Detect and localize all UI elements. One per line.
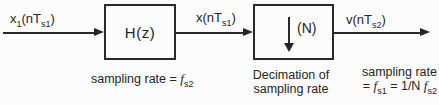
output-flow-line	[334, 32, 421, 34]
caption-line: = fs1 = 1/N fs2	[338, 79, 437, 93]
caption-text: = 1/N	[387, 79, 424, 93]
filtered-signal-label: x(nTs1)	[196, 10, 236, 25]
signal-text: )	[232, 10, 236, 25]
signal-subscript: s2	[372, 20, 382, 30]
caption-subscript: s1	[377, 86, 387, 96]
output-signal-label: v(nTs2)	[346, 12, 386, 27]
signal-text: )	[51, 11, 55, 26]
output-rate-caption: sampling rate = fs1 = 1/N fs2	[338, 65, 437, 93]
input-signal-label: x1(nTs1)	[10, 11, 55, 26]
signal-text: (nT	[203, 10, 223, 25]
mid-arrowhead-icon	[243, 28, 253, 36]
filter-rate-caption: sampling rate = fs2	[91, 72, 193, 86]
decimator-caption: Decimation of sampling rate	[247, 68, 335, 96]
decimation-block-diagram: x1(nTs1) H(z) x(nTs1) (N) v(nTs2) sampli…	[0, 0, 439, 105]
output-arrowhead-icon	[420, 28, 430, 36]
downsample-arrowhead-icon	[284, 43, 294, 52]
decimator-factor-label: (N)	[297, 20, 316, 36]
caption-line: Decimation of	[247, 68, 335, 82]
caption-line: sampling rate	[247, 82, 335, 96]
downsample-arrow-icon	[288, 17, 290, 44]
input-flow-line	[3, 32, 95, 34]
caption-text: =	[363, 79, 374, 93]
signal-subscript: s1	[222, 18, 232, 28]
input-arrowhead-icon	[94, 28, 104, 36]
signal-subscript: s1	[41, 19, 51, 29]
decimator-block: (N)	[253, 4, 334, 60]
caption-text: sampling rate =	[91, 72, 180, 86]
filter-block: H(z)	[104, 4, 176, 60]
mid-flow-line	[176, 32, 244, 34]
signal-text: (nT	[353, 12, 373, 27]
signal-text: )	[382, 12, 386, 27]
signal-text: (nT	[22, 11, 42, 26]
caption-subscript: s2	[184, 79, 194, 89]
filter-block-label: H(z)	[125, 24, 155, 41]
caption-subscript: s2	[427, 86, 437, 96]
caption-line: sampling rate	[338, 65, 437, 79]
